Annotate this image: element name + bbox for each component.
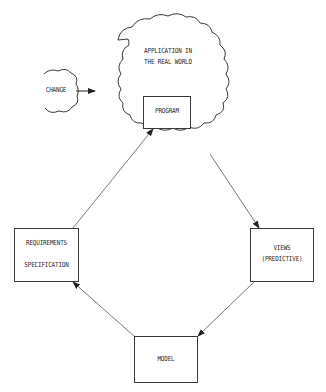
- edge-model-to-requirements: [73, 282, 134, 336]
- application-label-line1: APPLICATION IN: [134, 46, 202, 57]
- views-label-line2: (PREDICTIVE): [255, 254, 309, 265]
- requirements-label-line1: REQUIREMENTS: [19, 238, 74, 249]
- program-label: PROGRAM: [147, 106, 188, 117]
- model-label: MODEL: [139, 354, 193, 365]
- requirements-label-line2: SPECIFICATION: [19, 260, 74, 271]
- views-label-line1: VIEWS: [255, 243, 309, 254]
- change-label: CHANGE: [39, 85, 73, 96]
- edge-views-to-model: [198, 282, 254, 336]
- edge-requirements-to-program: [73, 129, 153, 228]
- requirements-box: [14, 228, 79, 282]
- application-label-line2: THE REAL WORLD: [134, 57, 202, 68]
- edge-application-to-views: [210, 154, 259, 228]
